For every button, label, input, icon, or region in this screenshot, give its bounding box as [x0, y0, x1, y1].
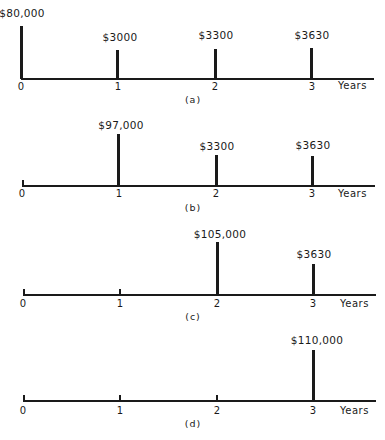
tick-mark-1 [119, 395, 121, 401]
cash-flow-bar-year-3 [312, 350, 315, 401]
cash-flow-diagram-d: $110,000 0 1 2 3 Years (d) [0, 0, 385, 440]
tick-label-2: 2 [214, 405, 220, 416]
tick-mark-2 [216, 395, 218, 401]
tick-label-3: 3 [310, 405, 316, 416]
tick-label-0: 0 [20, 405, 26, 416]
tick-label-1: 1 [117, 405, 123, 416]
axis-unit-label: Years [340, 405, 369, 416]
panel-caption: (d) [185, 418, 201, 429]
tick-mark-0 [23, 395, 25, 401]
value-label-year-3: $110,000 [291, 334, 344, 346]
time-axis [23, 400, 376, 402]
